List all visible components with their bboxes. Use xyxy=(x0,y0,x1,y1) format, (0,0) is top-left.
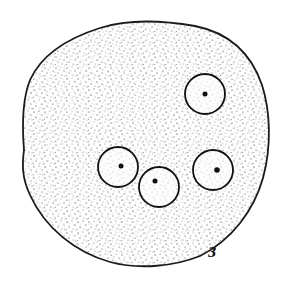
cytoplasm-texture xyxy=(23,22,269,267)
figure: 3 xyxy=(0,0,289,283)
nucleus-left xyxy=(98,147,138,187)
nucleus-right xyxy=(193,150,233,190)
cell-illustration xyxy=(0,0,289,283)
nucleus-middle xyxy=(139,167,179,207)
figure-label: 3 xyxy=(208,246,216,260)
nucleus-top-right xyxy=(185,74,225,114)
